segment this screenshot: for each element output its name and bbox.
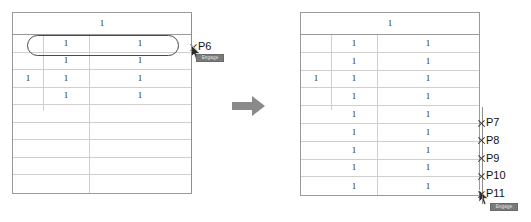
value-cell: 1 [377, 142, 479, 159]
before-table-panel: 1111111111 [12, 12, 192, 194]
table-row[interactable] [13, 140, 191, 158]
transition-arrow-icon [232, 93, 266, 119]
marker-label: P7 [486, 117, 499, 128]
value-cell [89, 105, 191, 122]
marker-p7: P7 [477, 117, 499, 128]
table-row[interactable] [13, 105, 191, 123]
group-cell: 1 [301, 71, 331, 88]
table-header-row: 1 [301, 13, 479, 35]
table-row[interactable] [13, 158, 191, 176]
marker-p11: P11 [477, 188, 505, 199]
marker-label: P11 [486, 188, 505, 199]
group-cell [301, 177, 331, 195]
marker-label: P8 [486, 135, 499, 146]
column-divider [377, 35, 378, 195]
table-row[interactable]: 11 [301, 142, 479, 160]
marker-p9: P9 [477, 153, 499, 164]
value-cell: 1 [377, 71, 479, 88]
table-row[interactable]: 11 [301, 53, 479, 71]
value-cell [89, 123, 191, 140]
sub-cell: 1 [43, 53, 89, 70]
x-marker-icon [477, 136, 486, 145]
group-cell [301, 142, 331, 159]
value-cell [89, 175, 191, 193]
tooltip-text: Engage [496, 205, 513, 210]
table-row[interactable]: 11 [301, 88, 479, 106]
group-cell [301, 88, 331, 105]
value-cell: 1 [377, 88, 479, 105]
table-row[interactable]: 11 [301, 177, 479, 195]
sub-cell: 1 [43, 88, 89, 105]
sub-cell [43, 158, 89, 175]
value-cell: 1 [89, 35, 191, 52]
column-divider [331, 35, 332, 110]
value-cell: 1 [377, 106, 479, 123]
table-row[interactable]: 11 [301, 124, 479, 142]
column-divider [89, 35, 90, 193]
tooltip-text: Engage [202, 56, 219, 61]
group-cell [13, 105, 43, 122]
value-cell: 1 [377, 124, 479, 141]
sub-cell [43, 175, 89, 193]
group-cell [13, 140, 43, 157]
marker-label: P9 [486, 153, 499, 164]
after-table-panel: 11111111111111111111 [300, 12, 480, 196]
value-cell: 1 [377, 35, 479, 52]
group-cell [13, 35, 43, 52]
x-marker-icon [477, 154, 486, 163]
after-table: 11111111111111111111 [300, 12, 480, 196]
group-cell [301, 53, 331, 70]
group-cell [301, 124, 331, 141]
table-row[interactable] [13, 175, 191, 193]
sub-cell: 1 [331, 106, 377, 123]
table-row[interactable]: 111 [13, 70, 191, 88]
table-row[interactable]: 11 [13, 35, 191, 53]
value-cell: 1 [89, 88, 191, 105]
group-cell: 1 [13, 70, 43, 87]
table-header-row: 1 [13, 13, 191, 35]
group-cell [13, 123, 43, 140]
sub-cell [43, 123, 89, 140]
table-row[interactable]: 11 [13, 88, 191, 106]
value-cell: 1 [377, 160, 479, 177]
value-cell: 1 [377, 53, 479, 70]
table-row[interactable] [13, 123, 191, 141]
sub-cell: 1 [331, 35, 377, 52]
table-row[interactable]: 11 [301, 35, 479, 53]
table-row[interactable]: 11 [301, 106, 479, 124]
sub-cell: 1 [331, 142, 377, 159]
sub-cell: 1 [331, 177, 377, 195]
table-row[interactable]: 11 [301, 160, 479, 178]
table-row[interactable]: 111 [301, 71, 479, 89]
engage-tooltip: Engage [490, 203, 518, 211]
group-cell [301, 35, 331, 52]
x-marker-icon [477, 118, 486, 127]
sub-cell: 1 [331, 53, 377, 70]
sub-cell: 1 [43, 35, 89, 52]
table-row[interactable]: 11 [13, 53, 191, 71]
x-marker-icon [477, 189, 486, 198]
group-cell [13, 158, 43, 175]
sub-cell: 1 [43, 70, 89, 87]
value-cell: 1 [89, 70, 191, 87]
value-cell: 1 [89, 53, 191, 70]
sub-cell: 1 [331, 88, 377, 105]
sub-cell: 1 [331, 124, 377, 141]
sub-cell [43, 105, 89, 122]
value-cell: 1 [377, 177, 479, 195]
before-table: 1111111111 [12, 12, 192, 194]
header-cell: 1 [301, 13, 479, 34]
sub-cell: 1 [331, 71, 377, 88]
header-cell: 1 [13, 13, 191, 34]
engage-tooltip: Engage [196, 54, 224, 62]
column-divider [43, 35, 44, 111]
group-cell [301, 106, 331, 123]
x-marker-icon [477, 171, 486, 180]
marker-p10: P10 [477, 170, 506, 181]
group-cell [301, 160, 331, 177]
value-cell [89, 140, 191, 157]
group-cell [13, 175, 43, 193]
marker-label: P10 [486, 170, 506, 181]
group-cell [13, 88, 43, 105]
sub-cell: 1 [331, 160, 377, 177]
